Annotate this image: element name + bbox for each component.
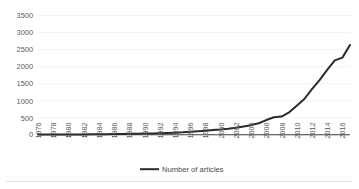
ytick-label: 1000 (17, 97, 33, 106)
xtick-label: 1986 (110, 123, 119, 139)
xtick-label: 1994 (171, 123, 180, 139)
xtick-label: 2004 (247, 123, 256, 139)
xtick-label: 1998 (201, 123, 210, 139)
xtick-label: 2010 (293, 123, 302, 139)
xtick-label: 1984 (95, 123, 104, 139)
ytick-label: 2000 (17, 62, 33, 71)
xtick-label: 1980 (64, 123, 73, 139)
xtick-label: 1990 (141, 123, 150, 139)
x-axis-tick-labels: 1976197819801982198419861988199019921994… (34, 123, 347, 139)
xtick-label: 1988 (125, 123, 134, 139)
xtick-label: 2014 (323, 123, 332, 139)
line-chart-canvas: 3500 3000 2500 2000 1500 1000 500 0 1976… (0, 0, 359, 189)
legend: Number of articles (140, 165, 224, 174)
xtick-label: 2002 (232, 123, 241, 139)
xtick-label: 2006 (262, 123, 271, 139)
xtick-label: 2008 (278, 123, 287, 139)
xtick-label: 2012 (308, 123, 317, 139)
xtick-label: 2000 (217, 123, 226, 139)
y-axis-tick-labels: 3500 3000 2500 2000 1500 1000 500 0 (17, 11, 33, 139)
ytick-label: 1500 (17, 79, 33, 88)
ytick-label: 500 (21, 114, 33, 123)
xtick-label: 2016 (338, 123, 347, 139)
plot-area-background (38, 12, 350, 135)
xtick-label: 1982 (80, 123, 89, 139)
ytick-label: 2500 (17, 45, 33, 54)
xtick-label: 1976 (34, 123, 43, 139)
xtick-label: 1996 (186, 123, 195, 139)
chart-figure: 3500 3000 2500 2000 1500 1000 500 0 1976… (0, 0, 359, 189)
ytick-label: 0 (29, 130, 33, 139)
xtick-label: 1992 (156, 123, 165, 139)
ytick-label: 3000 (17, 28, 33, 37)
xtick-label: 1978 (49, 123, 58, 139)
legend-label: Number of articles (162, 165, 224, 174)
ytick-label: 3500 (17, 11, 33, 20)
